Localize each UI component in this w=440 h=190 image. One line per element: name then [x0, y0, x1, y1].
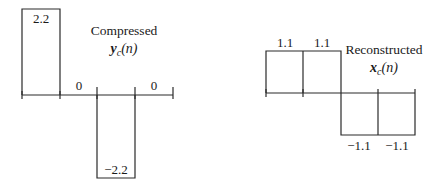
value-label: −1.1	[347, 138, 371, 153]
value-label: 0	[76, 78, 83, 93]
plot-title: Reconstructed	[345, 42, 422, 57]
value-label: 1.1	[277, 35, 293, 50]
signal-label: yc(n)	[109, 41, 138, 58]
diagram-canvas: 2.2 0 −2.2 0 Compressed yc(n) 1.1 1.1 −1…	[0, 0, 440, 190]
value-label: 2.2	[33, 11, 49, 26]
reconstructed-plot: 1.1 1.1 −1.1 −1.1 Reconstructed xc(n)	[266, 35, 423, 153]
value-label: −1.1	[385, 138, 409, 153]
value-label: −2.2	[104, 162, 128, 177]
signal-label: xc(n)	[369, 60, 398, 77]
value-label: 1.1	[314, 35, 330, 50]
value-label: 0	[151, 78, 158, 93]
compressed-plot: 2.2 0 −2.2 0 Compressed yc(n)	[22, 9, 173, 178]
plot-title: Compressed	[91, 23, 158, 38]
